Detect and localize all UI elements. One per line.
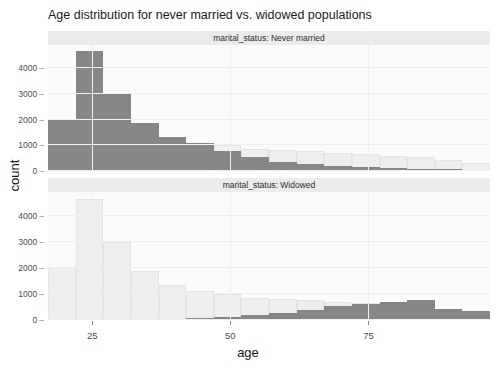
plot-area-never-married <box>48 45 490 171</box>
histogram-bar-background <box>186 291 214 320</box>
gridline-horizontal <box>48 215 490 216</box>
x-axis-tick-mark <box>230 321 231 325</box>
facet-panel-widowed: marital_status: Widowed <box>48 178 490 320</box>
histogram-bar-background <box>159 285 187 320</box>
histogram-bar-background <box>214 294 242 320</box>
y-axis-tick-label: 1000– <box>18 140 44 150</box>
x-axis-title: age <box>0 345 496 360</box>
gridline-vertical <box>92 192 93 320</box>
histogram-bar <box>324 306 352 320</box>
gridline-vertical <box>368 45 369 171</box>
histogram-bar-background <box>76 199 104 320</box>
gridline-horizontal <box>48 67 490 68</box>
histogram-bar-background <box>131 271 159 320</box>
y-axis-tick-label: 2000– <box>18 263 44 273</box>
chart-root: Age distribution for never married vs. w… <box>0 0 496 368</box>
gridline-horizontal <box>48 241 490 242</box>
histogram-bar <box>241 157 269 171</box>
facet-panel-never-married: marital_status: Never married <box>48 31 490 171</box>
facet-strip-widowed: marital_status: Widowed <box>48 178 490 192</box>
y-axis-tick-label: 3000– <box>18 237 44 247</box>
histogram-bar <box>352 304 380 320</box>
histogram-bar <box>131 123 159 171</box>
y-axis-tick-label: 0– <box>33 166 44 176</box>
x-axis-tick-label: 25 <box>87 330 98 341</box>
page-title: Age distribution for never married vs. w… <box>48 8 372 22</box>
facet-strip-label: marital_status: Widowed <box>223 180 316 190</box>
gridline-horizontal <box>48 93 490 94</box>
y-axis-tick-label: 3000– <box>18 89 44 99</box>
x-axis-tick-label: 50 <box>225 330 236 341</box>
gridline-vertical <box>230 45 231 171</box>
gridline-horizontal <box>48 267 490 268</box>
y-axis-tick-label: 0– <box>33 315 44 325</box>
y-axis-tick-label: 1000– <box>18 289 44 299</box>
histogram-bar <box>407 300 435 320</box>
x-axis-tick-label: 75 <box>363 330 374 341</box>
gridline-horizontal <box>48 293 490 294</box>
facet-strip-never-married: marital_status: Never married <box>48 31 490 45</box>
y-axis-tick-label: 4000– <box>18 63 44 73</box>
histogram-bar <box>103 94 131 171</box>
histogram-bar <box>214 151 242 171</box>
y-axis-tick-label: 2000– <box>18 115 44 125</box>
histogram-bar <box>380 302 408 320</box>
gridline-vertical <box>92 45 93 171</box>
x-axis-tick-mark <box>92 321 93 325</box>
histogram-bar <box>186 143 214 171</box>
histogram-bar <box>76 51 104 171</box>
gridline-horizontal <box>48 319 490 320</box>
y-axis-tick-label: 4000– <box>18 211 44 221</box>
x-axis-tick-mark <box>368 321 369 325</box>
histogram-bar <box>159 137 187 171</box>
plot-area-widowed <box>48 192 490 320</box>
gridline-vertical <box>230 192 231 320</box>
bar-layer-never-married <box>48 45 490 171</box>
bar-layer-widowed <box>48 192 490 320</box>
facet-strip-label: marital_status: Never married <box>213 33 324 43</box>
gridline-horizontal <box>48 144 490 145</box>
gridline-horizontal <box>48 119 490 120</box>
gridline-horizontal <box>48 170 490 171</box>
gridline-vertical <box>368 192 369 320</box>
histogram-bar-background <box>103 242 131 320</box>
